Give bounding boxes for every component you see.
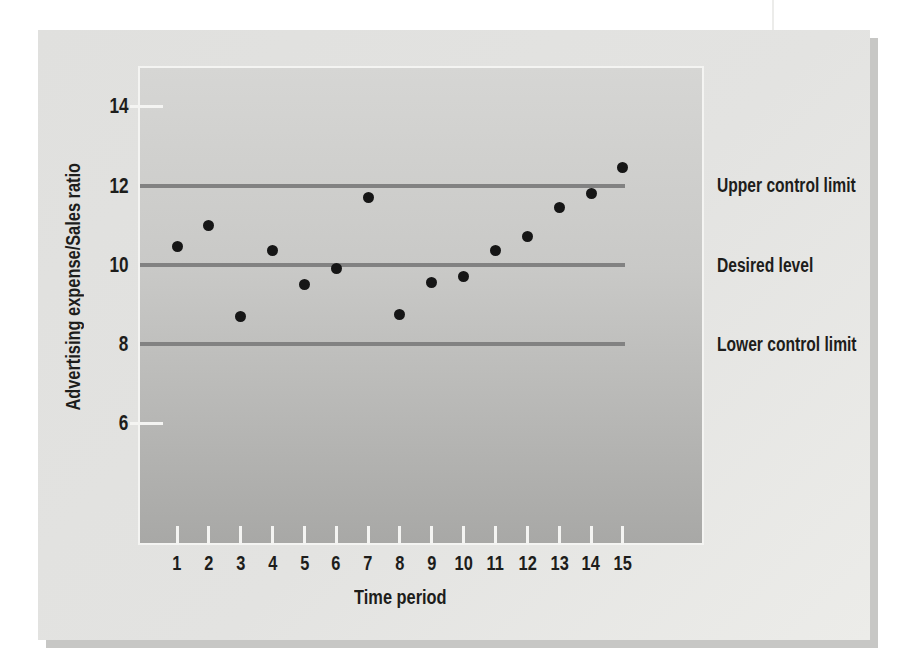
x-tick-label-text: 8 [395,550,404,576]
y-tick-label-text: 10 [109,252,128,278]
x-tick-label-text: 4 [268,550,277,576]
x-tick-label-text: 12 [518,550,536,576]
plot-area [138,66,704,545]
x-tick-label-2: 2 [194,550,224,576]
x-tick-label-1: 1 [162,550,192,576]
x-tick-label-13: 13 [544,550,574,576]
x-tick-mark-4 [271,526,274,543]
y-axis-title-text: Advertising expense/Sales ratio [60,163,85,411]
figure-card: Upper control limit Desired level Lower … [38,30,870,640]
reference-line-12 [140,184,625,188]
x-tick-label-5: 5 [289,550,319,576]
desired-level-label: Desired level [717,253,907,277]
upper-control-limit-text: Upper control limit [717,173,856,197]
y-tick-mark-14 [130,105,163,108]
x-tick-label-text: 14 [582,550,600,576]
x-tick-mark-7 [367,526,370,543]
x-tick-mark-15 [621,526,624,543]
x-tick-mark-5 [303,526,306,543]
lower-control-limit-text: Lower control limit [717,332,857,356]
x-tick-mark-8 [398,526,401,543]
y-tick-label-text: 6 [118,410,128,436]
y-tick-label-12: 12 [78,173,128,199]
y-tick-mark-6 [130,422,163,425]
y-axis-title: Advertising expense/Sales ratio [60,196,85,446]
x-tick-label-text: 2 [204,550,213,576]
scanned-page: Upper control limit Desired level Lower … [0,0,920,672]
x-tick-label-text: 1 [172,550,181,576]
y-tick-label-6: 6 [78,410,128,436]
data-point-3 [235,311,246,322]
reference-line-8 [140,342,625,346]
x-tick-label-text: 13 [550,550,568,576]
data-point-7 [363,192,374,203]
x-tick-mark-6 [335,526,338,543]
x-tick-label-11: 11 [481,550,511,576]
data-point-14 [586,188,597,199]
x-tick-label-7: 7 [353,550,383,576]
x-axis-title-text: Time period [354,584,447,609]
x-tick-mark-10 [462,526,465,543]
data-point-13 [554,202,565,213]
data-point-6 [331,263,342,274]
x-tick-mark-13 [558,526,561,543]
desired-level-text: Desired level [717,253,813,277]
x-tick-mark-14 [590,526,593,543]
x-tick-label-4: 4 [258,550,288,576]
x-axis-title: Time period [300,584,500,609]
data-point-1 [172,241,183,252]
lower-control-limit-label: Lower control limit [717,332,907,356]
y-tick-label-10: 10 [78,252,128,278]
x-tick-label-text: 5 [300,550,309,576]
x-tick-label-10: 10 [449,550,479,576]
x-tick-mark-3 [239,526,242,543]
x-tick-label-14: 14 [576,550,606,576]
y-tick-label-14: 14 [78,93,128,119]
upper-control-limit-label: Upper control limit [717,173,907,197]
x-tick-label-8: 8 [385,550,415,576]
x-tick-label-text: 11 [487,550,504,576]
scan-artifact-line [772,0,774,31]
x-tick-mark-9 [430,526,433,543]
x-tick-label-text: 6 [332,550,341,576]
x-tick-label-text: 9 [427,550,436,576]
data-point-5 [299,279,310,290]
y-tick-label-text: 14 [109,93,128,119]
x-tick-label-text: 3 [236,550,245,576]
x-tick-label-15: 15 [608,550,638,576]
x-tick-label-text: 15 [614,550,632,576]
x-tick-label-9: 9 [417,550,447,576]
y-tick-label-8: 8 [78,331,128,357]
y-tick-label-text: 8 [118,331,128,357]
x-tick-label-text: 10 [455,550,473,576]
x-tick-mark-2 [207,526,210,543]
x-tick-label-6: 6 [321,550,351,576]
y-tick-label-text: 12 [109,173,128,199]
x-tick-mark-11 [494,526,497,543]
x-tick-label-12: 12 [512,550,542,576]
x-tick-label-3: 3 [226,550,256,576]
x-tick-label-text: 7 [364,550,373,576]
x-tick-mark-12 [526,526,529,543]
data-point-2 [203,220,214,231]
reference-line-10 [140,263,625,267]
x-tick-mark-1 [176,526,179,543]
